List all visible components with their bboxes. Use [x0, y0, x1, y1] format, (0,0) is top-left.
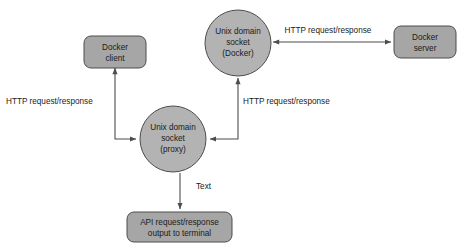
node-unix-socket-proxy[interactable]: Unix domain socket (proxy) [140, 106, 206, 172]
edge-label-proxy-to-docker-client: HTTP request/response [6, 97, 93, 106]
connector-proxy-to-docker-client [115, 68, 136, 139]
node-docker-server-label-line-2: server [414, 44, 437, 53]
node-docker-client-label-line-2: client [105, 54, 125, 63]
node-unix-socket-docker-label-line-1: Unix domain [215, 27, 261, 36]
node-docker-server[interactable]: Docker server [394, 26, 456, 58]
node-docker-client[interactable]: Docker client [84, 36, 146, 68]
node-unix-socket-docker-label-line-3: (Docker) [222, 49, 254, 58]
edge-label-proxy-to-api-output: Text [196, 182, 212, 191]
node-api-output-label-line-2: output to terminal [148, 229, 211, 238]
node-docker-server-label-line-1: Docker [412, 33, 438, 42]
node-unix-socket-proxy-label-line-2: socket [161, 134, 185, 143]
node-unix-socket-proxy-label-line-1: Unix domain [150, 123, 196, 132]
diagram-svg: Docker client Unix domain socket (Docker… [0, 0, 472, 247]
node-api-output-label-line-1: API request/response [140, 218, 219, 227]
edge-label-proxy-to-unix-socket-docker: HTTP request/response [243, 97, 330, 106]
diagram-canvas: Docker client Unix domain socket (Docker… [0, 0, 472, 247]
connector-proxy-to-unix-socket-docker [210, 78, 238, 139]
edge-label-unix-socket-docker-to-docker-server: HTTP request/response [285, 26, 372, 35]
node-docker-client-label-line-1: Docker [102, 43, 128, 52]
node-api-output[interactable]: API request/response output to terminal [127, 212, 232, 242]
node-unix-socket-proxy-label-line-3: (proxy) [160, 145, 186, 154]
node-unix-socket-docker-label-line-2: socket [226, 38, 250, 47]
node-unix-socket-docker[interactable]: Unix domain socket (Docker) [205, 10, 271, 76]
